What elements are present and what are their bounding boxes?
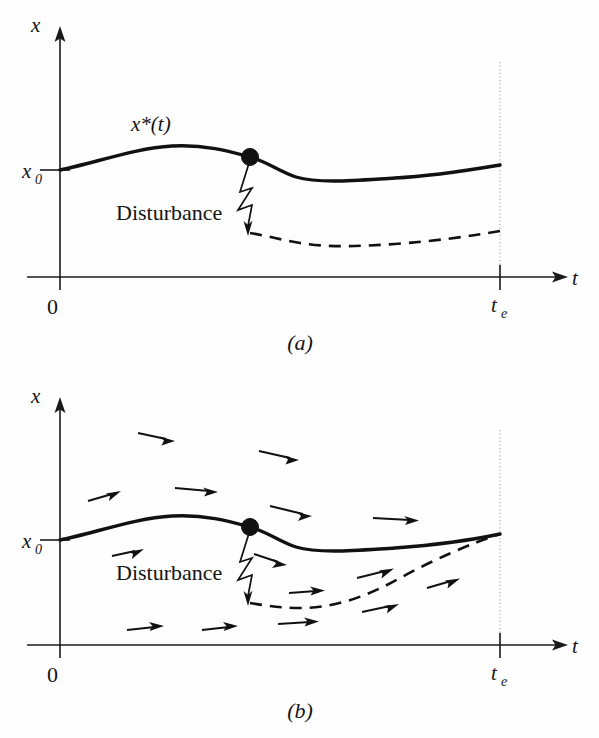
panel-a-caption: (a) [287, 330, 313, 355]
vector-field-arrow [259, 451, 299, 465]
panel-a-disturbance-bolt [238, 160, 252, 226]
panel-b-x0-label: x [21, 529, 32, 553]
panel-a-x0-label: x [21, 159, 32, 183]
panel-b-x-axis-label: t [572, 634, 579, 658]
panel-a-nominal-trajectory [60, 146, 500, 181]
panel-b-caption: (b) [287, 698, 313, 723]
panel-a-y-axis-label: x [30, 13, 41, 37]
figure-canvas: x t x 0 0 t e x*(t) Disturbance (a) [0, 0, 599, 738]
vector-field-arrow [373, 516, 419, 525]
panel-a-te-subscript: e [501, 306, 507, 321]
vector-field-arrow [362, 604, 399, 614]
panel-b-disturbance-label: Disturbance [116, 560, 222, 585]
vector-field-arrow [138, 433, 175, 446]
panel-a: x t x 0 0 t e x*(t) Disturbance (a) [21, 13, 579, 355]
panel-b: x t x 0 0 t e Disturbance (b) [21, 384, 579, 723]
panel-a-curve-label: x*(t) [130, 112, 171, 136]
panel-b-origin-label: 0 [47, 662, 58, 687]
panel-a-te-label: t [491, 293, 498, 317]
panel-b-disturbance-point [242, 519, 259, 536]
panel-b-vector-field [88, 433, 460, 631]
vector-field-arrow [427, 579, 460, 589]
vector-field-arrow [278, 618, 319, 627]
panel-b-te-label: t [491, 661, 498, 685]
panel-b-x0-subscript: 0 [35, 542, 42, 557]
vector-field-arrow [254, 554, 287, 568]
panel-b-y-axis-label: x [30, 384, 41, 408]
panel-b-nominal-trajectory [60, 516, 500, 551]
panel-a-origin-label: 0 [47, 294, 58, 319]
panel-a-x-axis-label: t [572, 266, 579, 290]
vector-field-arrow [175, 488, 218, 497]
panel-a-disturbed-trajectory [250, 231, 500, 246]
vector-field-arrow [357, 569, 394, 579]
vector-field-arrow [202, 622, 238, 631]
panel-b-disturbance-bolt [238, 530, 252, 596]
vector-field-arrow [127, 622, 164, 631]
panel-a-disturbance-label: Disturbance [116, 200, 222, 225]
vector-field-arrow [88, 491, 121, 501]
panel-a-x0-subscript: 0 [35, 172, 42, 187]
panel-a-disturbance-point [242, 149, 259, 166]
vector-field-arrow [289, 587, 325, 596]
vector-field-arrow [270, 506, 312, 521]
figure-container: x t x 0 0 t e x*(t) Disturbance (a) [0, 0, 599, 738]
vector-field-arrow [112, 549, 144, 559]
panel-b-te-subscript: e [501, 674, 507, 689]
